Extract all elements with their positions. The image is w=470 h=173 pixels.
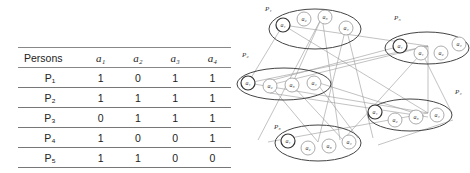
- svg-text:a₄: a₄: [311, 80, 316, 86]
- node: a₂: [297, 12, 311, 26]
- node: a₂: [263, 79, 277, 93]
- svg-text:a₂: a₂: [438, 50, 443, 56]
- node: a₃: [285, 78, 299, 92]
- table-row: P₄ 1 0 0 1: [18, 128, 231, 148]
- node: a₄: [307, 76, 321, 90]
- svg-text:a₄: a₄: [346, 139, 351, 145]
- person-cell: P₃: [18, 108, 82, 128]
- node: a₁: [276, 18, 290, 32]
- node: a₁: [281, 134, 295, 148]
- value-cell: 1: [82, 148, 119, 168]
- value-cell: 0: [119, 128, 156, 148]
- header-a2: a₂: [119, 48, 156, 68]
- node: a₂: [434, 46, 448, 60]
- value-cell: 1: [119, 108, 156, 128]
- header-a1: a₁: [82, 48, 119, 68]
- value-cell: 0: [82, 108, 119, 128]
- svg-text:a₂: a₂: [392, 117, 397, 123]
- group-p3: P₃ a₁ a₂ a₃ a₄: [273, 123, 361, 161]
- node: a₄: [339, 21, 353, 35]
- person-cell: P₅: [18, 148, 82, 168]
- svg-text:a₃: a₃: [413, 114, 418, 120]
- node: a₂: [301, 141, 315, 155]
- node: a₄: [342, 135, 356, 149]
- value-cell: 0: [157, 128, 194, 148]
- table-row: P₁ 1 0 1 1: [18, 68, 231, 88]
- value-cell: 1: [119, 88, 156, 108]
- value-cell: 0: [157, 148, 194, 168]
- value-cell: 1: [82, 88, 119, 108]
- svg-text:a₁: a₁: [372, 109, 377, 115]
- header-persons: Persons: [18, 48, 82, 68]
- node: a₁: [393, 39, 407, 53]
- node: a₄: [452, 37, 466, 51]
- node: a₁: [368, 105, 382, 119]
- value-cell: 0: [194, 148, 231, 168]
- value-cell: 1: [82, 128, 119, 148]
- svg-text:a₂: a₂: [305, 145, 310, 151]
- value-cell: 1: [194, 128, 231, 148]
- person-cell: P₁: [18, 68, 82, 88]
- header-a3: a₃: [157, 48, 194, 68]
- svg-text:a₁: a₁: [418, 50, 423, 56]
- value-cell: 1: [194, 68, 231, 88]
- table-row: P₂ 1 1 1 1: [18, 88, 231, 108]
- group-label: P₅: [393, 14, 401, 22]
- group-p5: P₅ a₁ a₁ a₂ a₄: [385, 14, 469, 64]
- value-cell: 1: [157, 68, 194, 88]
- value-cell: 1: [157, 108, 194, 128]
- group-p4: P₄ a₁ a₂ a₃ a₄: [368, 88, 462, 131]
- value-cell: 0: [119, 68, 156, 88]
- value-cell: 1: [194, 88, 231, 108]
- table-row: P₅ 1 1 0 0: [18, 148, 231, 168]
- node: a₂: [388, 113, 402, 127]
- node: a₄: [430, 108, 444, 122]
- group-p1: P₁ a₁ a₂ a₃ a₄: [264, 5, 361, 49]
- svg-text:a₁: a₁: [285, 138, 290, 144]
- svg-text:a₄: a₄: [343, 25, 348, 31]
- person-attribute-graph: P₁ a₁ a₂ a₃ a₄ P₅ a₁ a₁ a₂ a₄ P₂ a₁ a₂ a…: [228, 0, 470, 173]
- svg-text:a₁: a₁: [280, 22, 285, 28]
- person-cell: P₂: [18, 88, 82, 108]
- svg-text:a₃: a₃: [289, 82, 294, 88]
- node: a₃: [409, 110, 423, 124]
- table-header-row: Persons a₁ a₂ a₃ a₄: [18, 48, 231, 68]
- group-label: P₂: [241, 51, 249, 59]
- svg-text:a₃: a₃: [326, 143, 331, 149]
- table-row: P₃ 0 1 1 1: [18, 108, 231, 128]
- svg-text:a₂: a₂: [301, 16, 306, 22]
- node: a₁: [414, 46, 428, 60]
- value-cell: 1: [119, 148, 156, 168]
- persons-attributes-table: Persons a₁ a₂ a₃ a₄ P₁ 1 0 1 1 P₂ 1 1 1 …: [18, 47, 231, 168]
- value-cell: 1: [157, 88, 194, 108]
- node: a₁: [241, 76, 255, 90]
- header-a4: a₄: [194, 48, 231, 68]
- svg-text:a₁: a₁: [245, 80, 250, 86]
- value-cell: 1: [82, 68, 119, 88]
- svg-text:a₄: a₄: [456, 41, 461, 47]
- group-label: P₃: [273, 123, 281, 131]
- group-label: P₁: [264, 5, 272, 13]
- group-label: P₄: [454, 88, 462, 96]
- value-cell: 1: [194, 108, 231, 128]
- node: a₃: [318, 10, 332, 24]
- svg-text:a₂: a₂: [267, 83, 272, 89]
- person-cell: P₄: [18, 128, 82, 148]
- svg-text:a₁: a₁: [397, 43, 402, 49]
- node: a₃: [322, 139, 336, 153]
- svg-text:a₄: a₄: [434, 112, 439, 118]
- svg-text:a₃: a₃: [322, 14, 327, 20]
